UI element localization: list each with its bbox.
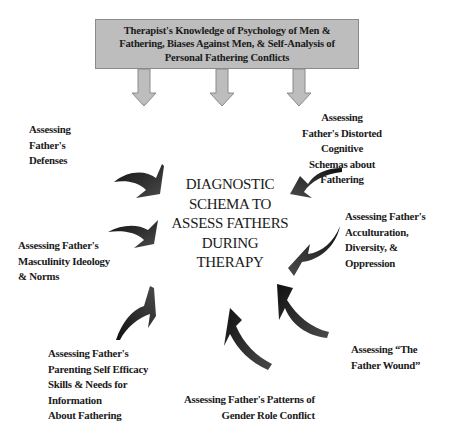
center-line: DURING xyxy=(160,234,300,254)
node-line: Assessing xyxy=(302,110,382,126)
center-title: DIAGNOSTIC SCHEMA TO ASSESS FATHERS DURI… xyxy=(160,175,300,273)
node-acculturation: Assessing Father's Acculturation, Divers… xyxy=(345,209,425,271)
therapist-knowledge-box: Therapist's Knowledge of Psychology of M… xyxy=(95,19,359,69)
node-line: Cognitive xyxy=(302,141,382,157)
node-defenses: Assessing Father's Defenses xyxy=(29,122,71,169)
curved-arrow-icon xyxy=(280,222,342,278)
down-arrow-icon xyxy=(286,69,312,107)
down-arrow-icon xyxy=(131,69,157,107)
curved-arrow-icon xyxy=(104,218,162,252)
top-box-line: Therapist's Knowledge of Psychology of M… xyxy=(119,24,335,38)
node-line: Assessing Father's xyxy=(345,209,425,225)
curved-arrow-icon xyxy=(112,282,160,342)
node-line: Father's Distorted xyxy=(302,126,382,142)
center-line: THERAPY xyxy=(160,253,300,273)
node-line: Assessing Father's xyxy=(18,238,110,254)
node-masculinity: Assessing Father's Masculinity Ideology … xyxy=(18,238,110,285)
curved-arrow-icon xyxy=(108,160,174,202)
node-line: Information xyxy=(48,393,148,409)
down-arrow-icon xyxy=(209,69,235,107)
node-line: Father's xyxy=(29,138,71,154)
node-line: Diversity, & xyxy=(345,240,425,256)
center-line: ASSESS FATHERS xyxy=(160,214,300,234)
node-line: Father Wound” xyxy=(351,358,420,374)
center-line: DIAGNOSTIC xyxy=(160,175,300,195)
top-box-line: Fathering, Biases Against Men, & Self-An… xyxy=(119,37,335,51)
node-line: Assessing xyxy=(29,122,71,138)
node-line: Acculturation, xyxy=(345,225,425,241)
node-gender-role: Assessing Father's Patterns of Gender Ro… xyxy=(184,392,315,423)
top-box-line: Personal Fathering Conflicts xyxy=(119,51,335,65)
node-line: Parenting Self Efficacy xyxy=(48,362,148,378)
curved-arrow-icon xyxy=(218,304,274,370)
node-line: About Fathering xyxy=(48,408,148,424)
node-line: Defenses xyxy=(29,153,71,169)
curved-arrow-icon xyxy=(286,164,344,200)
node-father-wound: Assessing “The Father Wound” xyxy=(351,342,420,373)
node-line: Assessing Father's xyxy=(48,346,148,362)
node-line: Assessing “The xyxy=(351,342,420,358)
node-line: Skills & Needs for xyxy=(48,377,148,393)
node-parenting: Assessing Father's Parenting Self Effica… xyxy=(48,346,148,424)
node-line: Masculinity Ideology xyxy=(18,254,110,270)
node-line: Assessing Father's Patterns of xyxy=(184,392,315,408)
node-line: & Norms xyxy=(18,269,110,285)
center-line: SCHEMA TO xyxy=(160,195,300,215)
node-line: Oppression xyxy=(345,256,425,272)
curved-arrow-icon xyxy=(275,280,331,340)
node-line: Gender Role Conflict xyxy=(184,408,315,424)
